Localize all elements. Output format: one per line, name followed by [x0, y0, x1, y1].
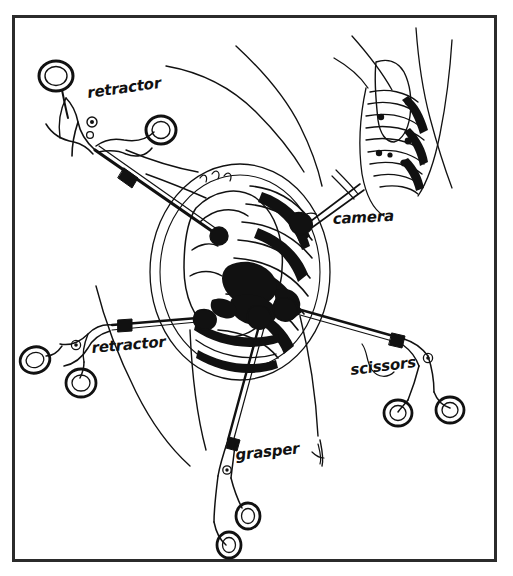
illustration-canvas: retractor camera retractor scissors gras…: [0, 0, 513, 576]
label-camera: camera: [332, 207, 394, 228]
illustration-figure: retractor camera retractor scissors gras…: [0, 0, 513, 576]
